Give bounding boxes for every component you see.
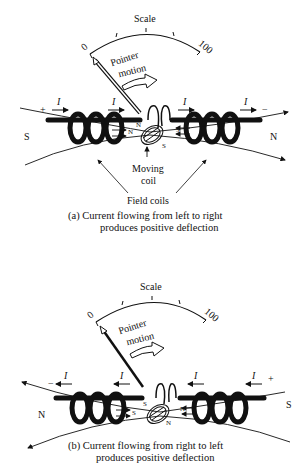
- left-pole: N: [38, 410, 45, 420]
- field-coils-label: Field coils: [127, 196, 169, 206]
- moving-coil-pole-bottom: N: [166, 420, 171, 427]
- inner-left-pole: N: [128, 129, 133, 136]
- right-terminal: −: [262, 105, 268, 115]
- right-pole: S: [286, 400, 292, 410]
- current-label: I: [252, 371, 255, 381]
- moving-coil-pole-bottom: S: [162, 143, 166, 150]
- moving-coil-pole-top: N: [136, 122, 141, 129]
- caption-b-line2: produces positive deflection: [96, 452, 214, 464]
- left-terminal: −: [48, 379, 54, 389]
- right-pole: N: [270, 132, 277, 142]
- scale-label: Scale: [134, 14, 156, 24]
- scale-label: Scale: [140, 282, 162, 292]
- caption-a-line1: (a) Current flowing from left to right: [68, 210, 223, 222]
- current-label: I: [57, 97, 60, 107]
- left-pole: S: [24, 132, 30, 142]
- current-label: I: [183, 97, 186, 107]
- inner-right-pole: N: [180, 406, 185, 413]
- right-terminal: +: [268, 374, 274, 384]
- caption-b-line1: (b) Current flowing from right to left: [68, 440, 223, 452]
- caption-a-line2: produces positive deflection: [100, 222, 218, 234]
- current-label: I: [64, 371, 67, 381]
- left-terminal: +: [40, 105, 46, 115]
- inner-left-pole: S: [132, 410, 136, 417]
- inner-right-pole: S: [176, 127, 180, 134]
- scale-arc: [96, 302, 206, 322]
- current-label: I: [194, 371, 197, 381]
- current-label: I: [120, 371, 123, 381]
- moving-coil-pole-top: S: [143, 401, 147, 408]
- moving-coil-label-1: Moving: [132, 164, 164, 174]
- panel-a: Scale 0 100 Pointer motion I I I I + − S…: [0, 0, 306, 232]
- scale-arc: [90, 34, 200, 54]
- panel-b: Scale 0 100 Pointer motion I I I I − + N…: [0, 270, 306, 468]
- field-lines: [20, 108, 288, 165]
- current-label: I: [244, 97, 247, 107]
- panel-b-drawing: [0, 270, 306, 468]
- moving-coil-label-2: coil: [141, 176, 156, 186]
- current-label: I: [112, 97, 115, 107]
